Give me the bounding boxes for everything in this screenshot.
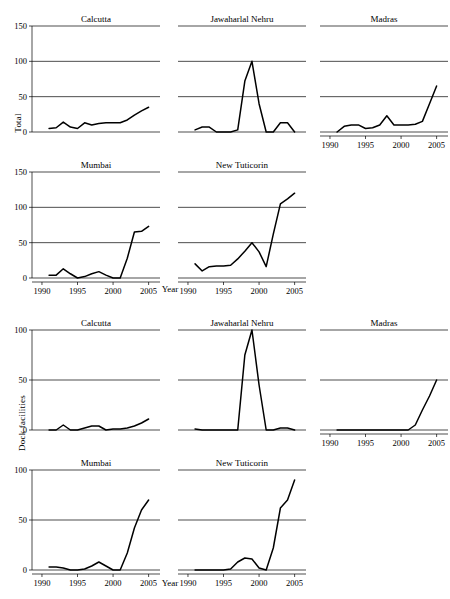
x-axis-tick-label: 1995 xyxy=(357,140,374,150)
x-axis-tick-label: 2000 xyxy=(393,438,410,448)
y-axis-tick-label: 150 xyxy=(14,21,27,31)
panel-svg: 1990199520002005 xyxy=(320,330,450,450)
plot-area: 1990199520002005 xyxy=(320,330,450,450)
plot-area: 050100150 xyxy=(32,26,162,134)
x-axis-tick-label: 1990 xyxy=(33,578,50,588)
plot-area xyxy=(178,26,308,134)
plot-area: 0501001501990199520002005 xyxy=(32,172,162,298)
plot-area: 050100 xyxy=(32,330,162,432)
panel-title: New Tuticorin xyxy=(178,458,306,469)
x-axis-tick-label: 1995 xyxy=(357,438,374,448)
x-axis-tick-label: 1990 xyxy=(33,286,50,296)
panel-title: Madras xyxy=(320,14,448,25)
panel-title: Mumbai xyxy=(32,458,160,469)
panel-group-total: Total Calcutta 050100150 Jawaharlal Nehr… xyxy=(0,0,450,300)
x-axis-tick-label: 2005 xyxy=(286,286,303,296)
y-axis-tick-label: 50 xyxy=(19,375,28,385)
panel-total-madras: Madras 1990199520002005 xyxy=(320,14,448,132)
panel-dock-new-tuticorin: New Tuticorin 1990199520002005 xyxy=(178,458,306,570)
panel-svg: 050100 xyxy=(32,330,162,432)
panel-title: Mumbai xyxy=(32,160,160,171)
panel-total-calcutta: Calcutta 050100150 xyxy=(32,14,160,132)
y-axis-tick-label: 100 xyxy=(14,56,27,66)
x-axis-label-dock-facilities: Year xyxy=(110,578,230,588)
data-series-line xyxy=(337,380,437,430)
x-axis-tick-label: 2005 xyxy=(286,578,303,588)
x-axis-tick-label: 2005 xyxy=(428,438,445,448)
multi-panel-line-chart-figure: Total Calcutta 050100150 Jawaharlal Nehr… xyxy=(0,0,450,599)
panel-svg: 1990199520002005 xyxy=(178,470,308,590)
plot-area: 0501001990199520002005 xyxy=(32,470,162,590)
panel-title: Calcutta xyxy=(32,14,160,25)
panel-title: Calcutta xyxy=(32,318,160,329)
panel-title: Madras xyxy=(320,318,448,329)
y-axis-tick-label: 0 xyxy=(23,273,27,283)
panel-title: Jawaharlal Nehru xyxy=(178,318,306,329)
x-axis-tick-label: 1990 xyxy=(321,140,338,150)
panel-dock-madras: Madras 1990199520002005 xyxy=(320,318,448,430)
y-axis-tick-label: 100 xyxy=(14,465,27,475)
y-axis-tick-label: 50 xyxy=(19,92,28,102)
plot-area xyxy=(178,330,308,432)
y-axis-tick-label: 50 xyxy=(19,515,28,525)
panel-title: Jawaharlal Nehru xyxy=(178,14,306,25)
x-axis-tick-label: 1995 xyxy=(69,578,86,588)
panel-dock-jawaharlal-nehru: Jawaharlal Nehru xyxy=(178,318,306,430)
x-axis-tick-label: 2000 xyxy=(251,286,268,296)
panel-svg: 1990199520002005 xyxy=(320,26,450,152)
y-axis-tick-label: 100 xyxy=(14,325,27,335)
panel-svg xyxy=(178,26,308,134)
y-axis-tick-label: 0 xyxy=(23,565,27,575)
x-axis-tick-label: 1995 xyxy=(69,286,86,296)
data-series-line xyxy=(49,226,149,278)
x-axis-tick-label: 1990 xyxy=(321,438,338,448)
y-axis-tick-label: 100 xyxy=(14,202,27,212)
plot-area: 1990199520002005 xyxy=(178,470,308,590)
panel-svg: 1990199520002005 xyxy=(178,172,308,298)
y-axis-label-dock-facilities: Dock facilities xyxy=(17,378,27,468)
plot-area: 1990199520002005 xyxy=(178,172,308,298)
panel-total-mumbai: Mumbai 0501001501990199520002005 xyxy=(32,160,160,278)
panel-dock-mumbai: Mumbai 0501001990199520002005 xyxy=(32,458,160,570)
data-series-line xyxy=(49,500,149,570)
plot-area: 1990199520002005 xyxy=(320,26,450,152)
y-axis-label-total: Total xyxy=(13,93,23,153)
y-axis-tick-label: 50 xyxy=(19,238,28,248)
data-series-line xyxy=(49,107,149,128)
panel-group-dock-facilities: Dock facilities Calcutta 050100 Jawaharl… xyxy=(0,300,450,599)
panel-svg: 0501001990199520002005 xyxy=(32,470,162,590)
x-axis-tick-label: 2000 xyxy=(251,578,268,588)
data-series-line xyxy=(195,193,295,271)
panel-total-new-tuticorin: New Tuticorin 1990199520002005 xyxy=(178,160,306,278)
panel-dock-calcutta: Calcutta 050100 xyxy=(32,318,160,430)
panel-total-jawaharlal-nehru: Jawaharlal Nehru xyxy=(178,14,306,132)
data-series-line xyxy=(195,480,295,570)
x-axis-label-total: Year xyxy=(110,284,230,294)
panel-title: New Tuticorin xyxy=(178,160,306,171)
panel-svg xyxy=(178,330,308,432)
x-axis-tick-label: 2005 xyxy=(428,140,445,150)
data-series-line xyxy=(337,86,437,132)
x-axis-tick-label: 2000 xyxy=(393,140,410,150)
y-axis-tick-label: 150 xyxy=(14,167,27,177)
y-axis-tick-label: 0 xyxy=(23,425,27,435)
y-axis-tick-label: 0 xyxy=(23,127,27,137)
panel-svg: 0501001501990199520002005 xyxy=(32,172,162,298)
panel-svg: 050100150 xyxy=(32,26,162,134)
data-series-line xyxy=(49,419,149,430)
